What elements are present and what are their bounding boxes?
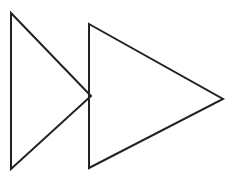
figure-canvas <box>0 0 234 180</box>
triangles-figure <box>0 0 234 180</box>
